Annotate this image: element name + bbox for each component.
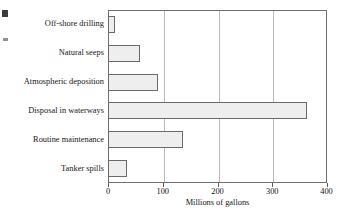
x-tick-label-200: 200 — [211, 187, 224, 197]
x-tick-label-400: 400 — [320, 187, 333, 197]
x-tick-label-100: 100 — [156, 187, 169, 197]
bar-chart: Off-shore drilling Natural seeps Atmosph… — [0, 0, 350, 212]
bars-layer — [108, 10, 327, 183]
bar-off-shore-drilling — [108, 16, 115, 33]
category-label-off-shore-drilling: Off-shore drilling — [0, 19, 104, 29]
bar-row — [108, 10, 327, 39]
bar-natural-seeps — [108, 45, 140, 62]
bar-row — [108, 97, 327, 126]
bar-atmospheric-deposition — [108, 74, 158, 91]
x-axis-title: Millions of gallons — [108, 198, 327, 208]
bar-routine-maintenance — [108, 131, 183, 148]
category-label-tanker-spills: Tanker spills — [0, 164, 104, 174]
bar-tanker-spills — [108, 160, 127, 177]
x-tick-label-0: 0 — [106, 187, 110, 197]
bar-row — [108, 154, 327, 183]
x-tick-label-300: 300 — [266, 187, 279, 197]
category-label-natural-seeps: Natural seeps — [0, 48, 104, 58]
category-label-disposal-in-waterways: Disposal in waterways — [0, 106, 104, 116]
bar-row — [108, 39, 327, 68]
category-label-atmospheric-deposition: Atmospheric deposition — [0, 77, 104, 87]
bar-disposal-in-waterways — [108, 102, 307, 119]
bar-row — [108, 125, 327, 154]
category-label-routine-maintenance: Routine maintenance — [0, 135, 104, 145]
category-axis-labels: Off-shore drilling Natural seeps Atmosph… — [0, 10, 104, 183]
bar-row — [108, 68, 327, 97]
